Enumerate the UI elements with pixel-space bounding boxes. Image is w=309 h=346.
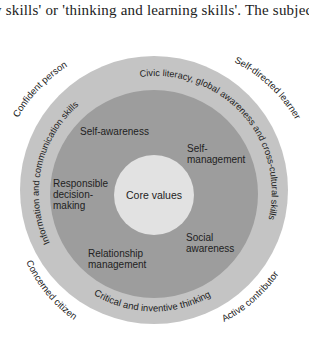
relationship-management-label-1: Relationship — [88, 248, 143, 259]
competencies-diagram: Core values Self-awareness Self- managem… — [0, 0, 309, 346]
responsible-label-3: making — [53, 200, 85, 211]
social-awareness-label-1: Social — [186, 232, 213, 243]
self-management-label-1: Self- — [187, 143, 208, 154]
self-management-label-2: management — [187, 154, 246, 165]
relationship-management-label-2: management — [88, 259, 147, 270]
social-awareness-label-2: awareness — [186, 243, 234, 254]
self-awareness-label: Self-awareness — [80, 126, 149, 137]
responsible-label-1: Responsible — [53, 178, 108, 189]
core-values-label: Core values — [126, 189, 182, 201]
responsible-label-2: decision- — [53, 189, 93, 200]
